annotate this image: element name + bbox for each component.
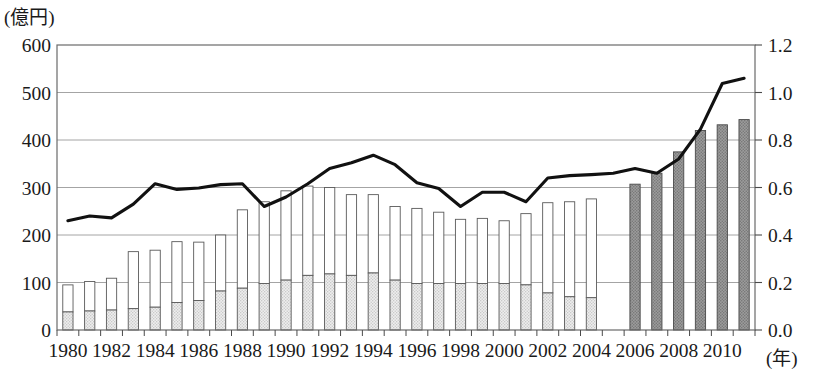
bar-segment-lower-hatched [63, 312, 73, 330]
bar-group [106, 278, 116, 330]
bar-segment-total-dark [652, 173, 662, 330]
x-axis-tick-label: 1996 [397, 340, 436, 361]
x-axis-tick-label: 1998 [441, 340, 480, 361]
bar-segment-lower-hatched [215, 291, 225, 330]
bar-segment-lower-hatched [368, 273, 378, 330]
bar-segment-lower-hatched [106, 310, 116, 330]
bar-group [434, 212, 444, 330]
y-axis-left-tick-label: 200 [22, 225, 51, 246]
bar-group [586, 199, 596, 330]
bar-group [259, 202, 269, 330]
bar-segment-lower-hatched [477, 283, 487, 330]
bar-segment-lower-hatched [412, 283, 422, 330]
bar-group [521, 214, 531, 330]
bar-group [85, 282, 95, 330]
y-axis-left-tick-label: 500 [22, 83, 51, 104]
bar-segment-lower-hatched [237, 288, 247, 330]
bar-segment-upper-white [477, 218, 487, 283]
y-axis-right-ticks: 0.00.20.40.60.81.01.2 [755, 35, 793, 341]
bar-segment-lower-hatched [521, 285, 531, 330]
x-axis-tick-label: 1982 [92, 340, 131, 361]
bar-group [499, 221, 509, 330]
bar-group [652, 173, 662, 330]
bar-group [390, 207, 400, 331]
y-axis-left-tick-label: 100 [22, 273, 51, 294]
x-axis-tick-label: 1992 [310, 340, 349, 361]
bar-group [281, 191, 291, 330]
bar-segment-upper-white [390, 207, 400, 281]
x-axis-unit-label: (年) [766, 348, 798, 370]
y-axis-left-tick-label: 600 [22, 35, 51, 56]
bar-segment-upper-white [63, 285, 73, 312]
x-axis-tick-label: 2006 [616, 340, 655, 361]
bar-segment-lower-hatched [499, 283, 509, 330]
bar-segment-lower-hatched [85, 311, 95, 330]
y-axis-left-unit-label: (億円) [4, 7, 55, 29]
x-axis-tick-label: 1988 [223, 340, 262, 361]
x-axis-tick-label: 2002 [528, 340, 567, 361]
y-axis-right-tick-label: 0.0 [768, 320, 792, 341]
y-axis-right-tick-label: 0.8 [768, 130, 792, 151]
bar-group [150, 250, 160, 330]
bar-group [477, 218, 487, 330]
bar-group [172, 242, 182, 330]
y-axis-right-tick-label: 0.2 [768, 273, 792, 294]
bar-segment-total-dark [739, 120, 749, 330]
cropped-title-remnant [232, 0, 592, 7]
bar-segment-upper-white [150, 250, 160, 307]
bar-segment-upper-white [85, 282, 95, 311]
bar-group [346, 195, 356, 330]
x-axis-tick-label: 1986 [179, 340, 218, 361]
bar-segment-upper-white [237, 210, 247, 288]
bar-group [412, 208, 422, 330]
bar-segment-upper-white [455, 219, 465, 283]
chart-root: 0100200300400500600 0.00.20.40.60.81.01.… [0, 0, 820, 378]
bar-segment-lower-hatched [455, 283, 465, 330]
bar-group [695, 131, 705, 331]
bar-segment-upper-white [128, 252, 138, 309]
bar-segment-upper-white [106, 278, 116, 310]
x-axis-tick-label: 2004 [572, 340, 611, 361]
bar-segment-upper-white [434, 212, 444, 283]
bar-group [128, 252, 138, 330]
bar-segment-lower-hatched [346, 275, 356, 330]
bar-group [630, 184, 640, 330]
bar-segment-lower-hatched [150, 307, 160, 330]
y-axis-right-tick-label: 1.0 [768, 83, 792, 104]
x-axis-tick-label: 1994 [354, 340, 393, 361]
bar-group [674, 152, 684, 330]
bar-segment-upper-white [259, 202, 269, 284]
bar-segment-lower-hatched [325, 274, 335, 330]
bar-segment-lower-hatched [128, 309, 138, 330]
bar-group [717, 125, 727, 330]
y-axis-right-tick-label: 1.2 [768, 35, 792, 56]
bar-segment-total-dark [630, 184, 640, 330]
y-axis-left-tick-label: 400 [22, 130, 51, 151]
bar-segment-upper-white [586, 199, 596, 298]
bar-segment-lower-hatched [543, 293, 553, 330]
bar-segment-upper-white [303, 186, 313, 275]
y-axis-left-tick-label: 0 [41, 320, 51, 341]
bar-segment-upper-white [564, 202, 574, 297]
bar-segment-upper-white [215, 235, 225, 291]
bar-group [564, 202, 574, 330]
bar-segment-total-dark [674, 152, 684, 330]
bar-group [325, 188, 335, 331]
y-axis-right-tick-label: 0.6 [768, 178, 793, 199]
bar-group [455, 219, 465, 330]
bar-group [368, 195, 378, 330]
x-axis-tick-label: 1984 [136, 340, 175, 361]
bar-group [194, 242, 204, 330]
y-axis-left-ticks: 0100200300400500600 [22, 35, 51, 341]
bar-segment-lower-hatched [172, 302, 182, 330]
bar-segment-lower-hatched [194, 301, 204, 330]
x-axis-tick-label: 2008 [659, 340, 698, 361]
bar-segment-upper-white [346, 195, 356, 276]
bar-group [739, 120, 749, 330]
bar-segment-lower-hatched [259, 283, 269, 330]
bar-segment-total-dark [717, 125, 727, 330]
bar-segment-lower-hatched [564, 297, 574, 330]
bar-segment-upper-white [499, 221, 509, 284]
bar-group [63, 285, 73, 330]
x-axis-tick-label: 2010 [703, 340, 742, 361]
